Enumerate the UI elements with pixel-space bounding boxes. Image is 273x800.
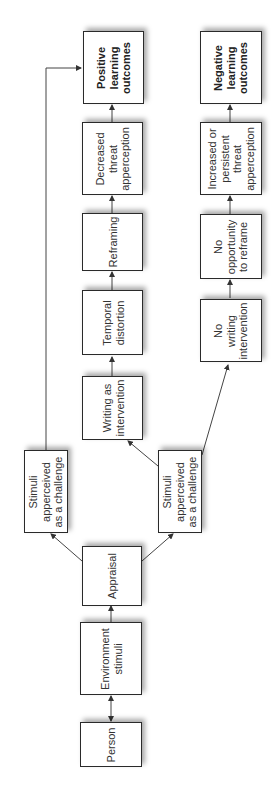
node-label: Negative learning outcomes xyxy=(212,42,250,94)
node-stimuli-challenge-upper: Stimuli apperceived as a challenge xyxy=(24,450,68,533)
node-writing-intervention: Writing as intervention xyxy=(82,376,143,440)
node-no-reframe: No opportunity to reframe xyxy=(200,214,262,279)
node-appraisal: Appraisal xyxy=(82,546,142,606)
node-label: Stimuli apperceived as a challenge xyxy=(27,456,65,527)
node-label: Temporal distortion xyxy=(100,300,125,345)
node-label: Writing as intervention xyxy=(100,380,125,437)
node-label: Increased or persistent threat appercept… xyxy=(206,127,256,191)
node-label: No opportunity to reframe xyxy=(212,219,250,273)
node-label: Stimuli apperceived as a challenge xyxy=(161,456,199,527)
node-label: Environment stimuli xyxy=(99,628,124,690)
node-label: No writing intervention xyxy=(212,302,250,359)
node-person: Person xyxy=(80,722,142,767)
flow-diagram: Person Environment stimuli Appraisal Sti… xyxy=(0,0,273,800)
node-no-writing: No writing intervention xyxy=(200,299,262,362)
node-negative-outcomes: Negative learning outcomes xyxy=(200,31,262,104)
node-label: Person xyxy=(105,727,118,762)
node-label: Positive learning outcomes xyxy=(95,42,133,94)
node-stimuli-challenge-lower: Stimuli apperceived as a challenge xyxy=(158,450,202,533)
node-label: Decreased threat apperception xyxy=(94,127,132,191)
node-positive-outcomes: Positive learning outcomes xyxy=(83,31,144,104)
node-label: Appraisal xyxy=(106,553,119,599)
node-decreased-threat: Decreased threat apperception xyxy=(82,122,143,195)
node-temporal-distortion: Temporal distortion xyxy=(82,290,143,355)
node-increased-threat: Increased or persistent threat appercept… xyxy=(200,122,262,195)
node-label: Reframing xyxy=(106,217,119,268)
node-environment-stimuli: Environment stimuli xyxy=(80,622,142,695)
node-reframing: Reframing xyxy=(82,213,143,271)
